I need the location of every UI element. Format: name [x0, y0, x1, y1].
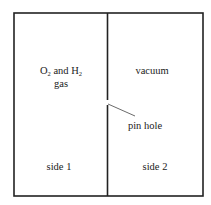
side2-label: side 2 — [143, 161, 168, 172]
gas-label: O2 and H2 — [40, 65, 82, 77]
vacuum-label: vacuum — [135, 65, 168, 76]
side1-label: side 1 — [47, 161, 72, 172]
diagram-canvas: O2 and H2 gas vacuum pin hole side 1 sid… — [0, 0, 211, 205]
pinhole-label: pin hole — [128, 120, 162, 131]
pinhole-pointer-line — [108, 104, 135, 116]
gas-label-line2: gas — [54, 78, 68, 89]
